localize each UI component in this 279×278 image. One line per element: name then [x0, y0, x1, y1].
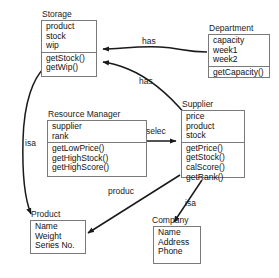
- edge-label-has-supplier-storage: has: [139, 76, 153, 86]
- class-title-company: Company: [152, 215, 188, 225]
- edge-label-isa-supplier-company: isa: [185, 198, 196, 208]
- operations-compartment-resource-manager: getLowPrice() getHighStock() getHighScor…: [48, 142, 146, 174]
- edge-has-supplier-storage: [103, 62, 186, 115]
- operation-item: getRank(): [186, 173, 241, 183]
- class-box-resource-manager[interactable]: supplier rank getLowPrice() getHighStock…: [47, 120, 147, 177]
- edge-label-produc-supplier-product: produc: [108, 186, 134, 196]
- attributes-compartment-resource-manager: supplier rank: [48, 121, 146, 142]
- operation-item: getWip(): [46, 63, 93, 73]
- class-title-product: Product: [31, 209, 60, 219]
- attributes-compartment-product: Name Weight Series No.: [31, 221, 85, 252]
- attribute-item: Series No.: [35, 241, 82, 251]
- edge-label-isa-storage-product: isa: [25, 138, 36, 148]
- uml-class-diagram: has has selec isa produc isa Storage pro…: [0, 0, 279, 278]
- attributes-compartment-supplier: price product stock: [182, 111, 244, 142]
- class-box-company[interactable]: Name Address Phone: [153, 226, 201, 264]
- attribute-item: Phone: [158, 247, 197, 257]
- attributes-compartment-company: Name Address Phone: [154, 227, 200, 258]
- edge-label-has-department-storage: has: [142, 36, 156, 46]
- operation-item: getCapacity(): [213, 68, 266, 78]
- operations-compartment-supplier: getPrice() getStock() calScore() getRank…: [182, 142, 244, 183]
- attribute-item: rank: [52, 132, 143, 142]
- attributes-compartment-department: capacity week1 week2: [209, 35, 269, 66]
- edge-has-department-storage: [103, 47, 207, 52]
- class-title-department: Department: [209, 23, 253, 33]
- edge-label-selec-resourcemanager-supplier: selec: [146, 126, 166, 136]
- attribute-item: week2: [213, 55, 266, 65]
- class-box-storage[interactable]: product stock wip getStock() getWip(): [41, 20, 97, 77]
- class-box-supplier[interactable]: price product stock getPrice() getStock(…: [181, 110, 245, 178]
- operation-item: getHighScore(): [52, 163, 143, 173]
- attribute-item: wip: [46, 41, 93, 51]
- attribute-item: stock: [186, 131, 241, 141]
- class-box-department[interactable]: capacity week1 week2 getCapacity(): [208, 34, 270, 78]
- operations-compartment-department: getCapacity(): [209, 66, 269, 79]
- attributes-compartment-storage: product stock wip: [42, 21, 96, 52]
- operations-compartment-storage: getStock() getWip(): [42, 52, 96, 74]
- class-title-supplier: Supplier: [182, 99, 213, 109]
- class-title-resource-manager: Resource Manager: [48, 109, 120, 119]
- class-title-storage: Storage: [42, 9, 72, 19]
- class-box-product[interactable]: Name Weight Series No.: [30, 220, 86, 254]
